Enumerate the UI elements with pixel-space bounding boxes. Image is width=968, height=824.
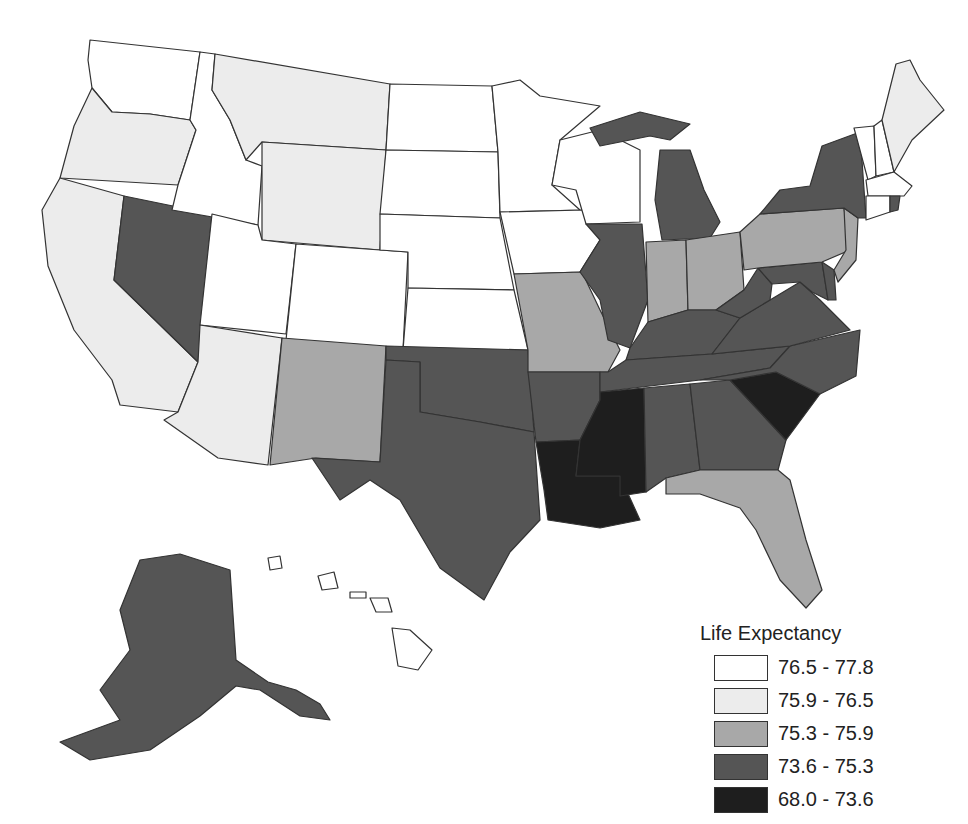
state-MI — [590, 112, 690, 146]
map-legend: Life Expectancy 76.5 - 77.8 75.9 - 76.5 … — [700, 622, 960, 816]
legend-swatch — [714, 655, 768, 681]
state-CT — [866, 196, 890, 220]
state-NM — [270, 338, 386, 465]
state-ME — [882, 60, 944, 172]
state-RI — [890, 196, 900, 212]
legend-item: 68.0 - 73.6 — [714, 783, 960, 816]
legend-swatch — [714, 688, 768, 714]
legend-item: 75.3 - 75.9 — [714, 717, 960, 750]
legend-label: 68.0 - 73.6 — [778, 788, 874, 811]
state-WY — [262, 142, 386, 250]
legend-item: 73.6 - 75.3 — [714, 750, 960, 783]
legend-title: Life Expectancy — [700, 622, 960, 645]
legend-label: 76.5 - 77.8 — [778, 656, 874, 679]
legend-label: 75.9 - 76.5 — [778, 689, 874, 712]
state-NY — [760, 132, 866, 218]
state-SD — [380, 150, 500, 218]
state-KS — [403, 288, 528, 350]
state-IN — [646, 240, 688, 322]
state-AK — [60, 554, 330, 760]
state-ND — [386, 84, 498, 152]
legend-item: 76.5 - 77.8 — [714, 651, 960, 684]
legend-item: 75.9 - 76.5 — [714, 684, 960, 717]
legend-swatch — [714, 721, 768, 747]
state-MI-lower — [655, 150, 720, 240]
legend-label: 73.6 - 75.3 — [778, 755, 874, 778]
legend-swatch — [714, 754, 768, 780]
state-CO — [286, 244, 408, 350]
state-HI — [268, 556, 432, 670]
state-FL — [666, 470, 822, 608]
legend-label: 75.3 - 75.9 — [778, 722, 874, 745]
legend-swatch — [714, 787, 768, 813]
state-PA — [740, 208, 850, 270]
